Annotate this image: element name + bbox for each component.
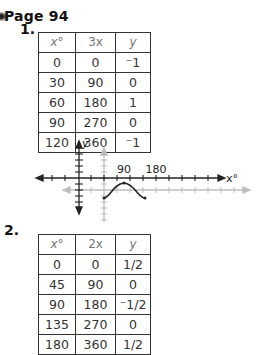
cell: 135: [39, 315, 76, 335]
cell: 0: [76, 255, 116, 275]
problem-2-table: x° 2x y 0 0 1/2 45 90 0 90 180 ⁻1/2 135 …: [38, 234, 151, 355]
cell: 90: [39, 295, 76, 315]
header-x-degrees: x°: [39, 235, 76, 255]
x-axis-label: x°: [226, 172, 238, 185]
curve-peak-point: [123, 182, 126, 185]
table-row: 45 90 0: [39, 275, 151, 295]
cell: 1/2: [116, 255, 151, 275]
header-2x: 2x: [76, 235, 116, 255]
tick-label-90: 90: [117, 163, 131, 176]
cell: ⁻1/2: [116, 295, 151, 315]
cell: 90: [76, 275, 116, 295]
curve-end-point: [144, 197, 147, 200]
table-row: 0 0 1/2: [39, 255, 151, 275]
table-row: 135 270 0: [39, 315, 151, 335]
dark-axes: [36, 141, 225, 214]
table-header-row: x° 2x y: [39, 235, 151, 255]
gray-axes: [63, 148, 250, 222]
cell: 180: [39, 335, 76, 355]
cell: 45: [39, 275, 76, 295]
y-axis-label: y: [81, 137, 89, 150]
problem-2-number: 2.: [4, 222, 19, 238]
tick-label-180: 180: [146, 163, 167, 176]
cell: 0: [116, 275, 151, 295]
cell: 180: [76, 295, 116, 315]
table-row: 90 180 ⁻1/2: [39, 295, 151, 315]
table-row: 180 360 1/2: [39, 335, 151, 355]
header-y: y: [116, 235, 151, 255]
cell: 1/2: [116, 335, 151, 355]
cell: 0: [39, 255, 76, 275]
cell: 270: [76, 315, 116, 335]
curve-start-point: [103, 197, 106, 200]
cell: 360: [76, 335, 116, 355]
cell: 0: [116, 315, 151, 335]
